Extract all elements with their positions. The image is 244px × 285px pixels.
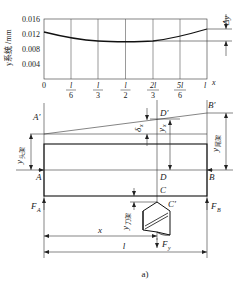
- svg-text:y: y: [156, 128, 166, 133]
- svg-text:x: x: [161, 124, 167, 128]
- x-dim-label: x: [97, 225, 102, 235]
- svg-text:y: y: [120, 226, 130, 231]
- force-FB-label: F B: [210, 201, 221, 213]
- x-tick-l3: l 3: [93, 81, 103, 100]
- x-tick-l2: l 2: [121, 81, 131, 100]
- deflection-plot: Δy 0.016 0.012 0.008 0.004 y系统 /mm 0 l 6…: [3, 14, 232, 100]
- svg-text:A: A: [36, 207, 41, 213]
- diagram-canvas: Δy 0.016 0.012 0.008 0.004 y系统 /mm 0 l 6…: [0, 0, 244, 285]
- y-x-label: y x: [156, 124, 167, 133]
- delta-y-label: Δy: [221, 16, 231, 26]
- lathe-deflection-diagram: y 头架 y 尾架 δ x y x A′ B′ D′ A D B C C′: [14, 100, 233, 279]
- svg-text:F: F: [210, 201, 217, 211]
- svg-text:3: 3: [151, 91, 155, 100]
- svg-text:F: F: [161, 239, 168, 249]
- svg-text:6: 6: [69, 91, 73, 100]
- y-tick-0008: 0.008: [22, 45, 40, 54]
- y-tick-0004: 0.004: [22, 60, 40, 69]
- x-tick-2l3: 2l 3: [147, 81, 159, 100]
- force-Fy-label: F y: [161, 239, 171, 251]
- line-A-prime-B-prime: [44, 113, 207, 134]
- svg-text:y: y: [167, 245, 171, 251]
- y-tool-label: y 刀架: [120, 213, 132, 231]
- svg-text:头架: 头架: [18, 147, 26, 159]
- y-tick-0016: 0.016: [22, 15, 40, 24]
- svg-text:6: 6: [178, 91, 182, 100]
- tool-holder: [143, 202, 170, 235]
- y-tick-0012: 0.012: [22, 30, 40, 39]
- svg-text:2: 2: [124, 91, 128, 100]
- svg-text:l: l: [97, 81, 100, 90]
- svg-text:y: y: [14, 160, 24, 165]
- svg-text:l: l: [124, 81, 127, 90]
- x-tick-origin: 0: [42, 81, 46, 90]
- label-D: D: [159, 172, 167, 182]
- label-A: A: [35, 172, 42, 182]
- svg-text:B: B: [217, 207, 221, 213]
- label-C: C: [160, 185, 167, 195]
- label-D-prime: D′: [159, 108, 169, 118]
- svg-text:3: 3: [96, 91, 100, 100]
- force-FA-label: F A: [30, 201, 41, 213]
- y-head-label: y 头架: [14, 147, 26, 165]
- svg-text:x: x: [138, 124, 144, 128]
- svg-text:2l: 2l: [150, 81, 157, 90]
- svg-text:尾架: 尾架: [214, 135, 222, 147]
- label-C-prime: C′: [168, 199, 177, 209]
- figure-caption: a): [142, 269, 149, 279]
- svg-text:F: F: [30, 201, 37, 211]
- x-tick-l: l: [204, 81, 207, 90]
- label-B-prime: B′: [208, 100, 216, 110]
- y-tail-label: y 尾架: [210, 135, 222, 153]
- svg-text:l: l: [70, 81, 73, 90]
- x-axis-label: x: [211, 78, 216, 87]
- x-tick-5l6: 5l 6: [174, 81, 186, 100]
- y-axis-label: y系统 /mm: [3, 29, 13, 66]
- svg-text:y: y: [210, 148, 220, 153]
- svg-text:5l: 5l: [177, 81, 184, 90]
- x-tick-l6: l 6: [66, 81, 76, 100]
- delta-x-label: δ x: [133, 124, 144, 132]
- label-B: B: [209, 172, 215, 182]
- svg-text:刀架: 刀架: [124, 213, 132, 225]
- l-dim-label: l: [123, 241, 126, 251]
- label-A-prime: A′: [32, 112, 41, 122]
